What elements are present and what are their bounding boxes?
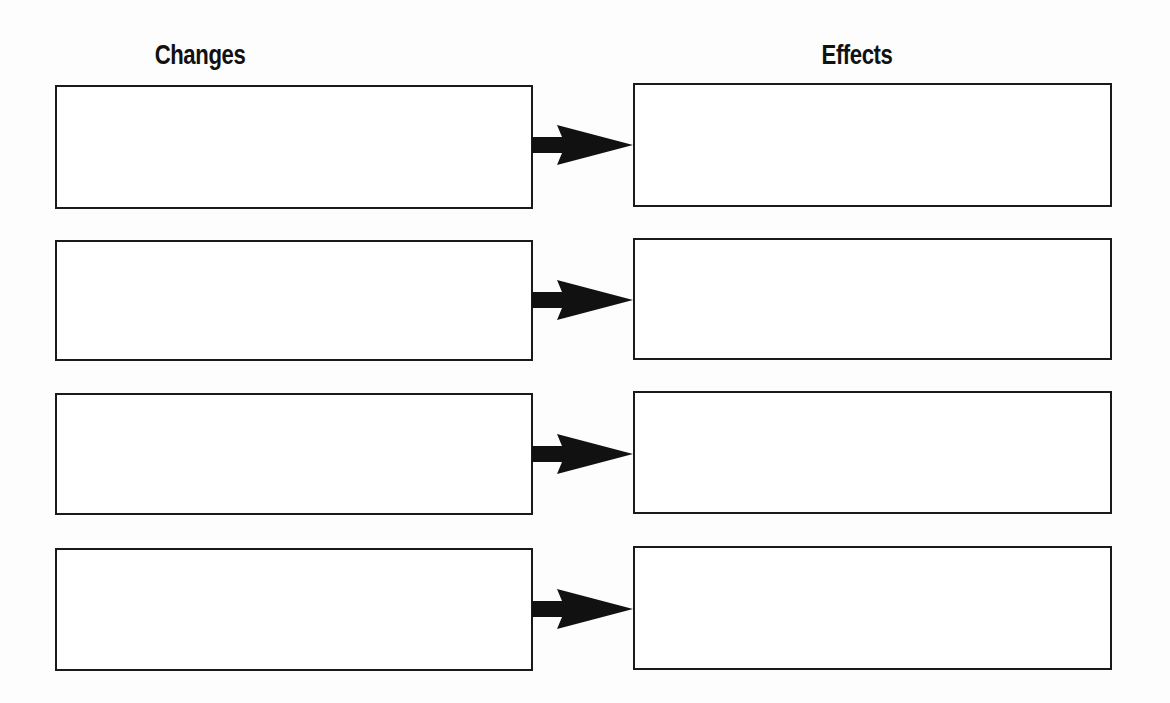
effect-box-4[interactable] — [633, 546, 1112, 670]
change-box-4[interactable] — [55, 548, 533, 671]
effect-box-3[interactable] — [633, 391, 1112, 514]
change-box-2[interactable] — [55, 240, 533, 361]
right-arrow-icon — [532, 588, 634, 630]
right-arrow-icon — [532, 279, 634, 321]
effect-box-2[interactable] — [633, 238, 1112, 360]
effects-heading: Effects — [775, 40, 939, 71]
changes-heading: Changes — [118, 40, 282, 71]
change-box-1[interactable] — [55, 85, 533, 209]
right-arrow-icon — [532, 124, 634, 166]
change-box-3[interactable] — [55, 393, 533, 515]
effect-box-1[interactable] — [633, 83, 1112, 207]
right-arrow-icon — [532, 433, 634, 475]
